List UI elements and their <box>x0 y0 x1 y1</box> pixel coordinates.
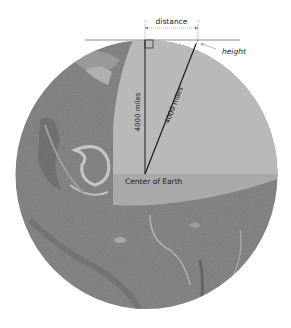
height-arrow <box>200 43 216 49</box>
distance-label: distance <box>156 17 188 26</box>
height-label: height <box>222 47 247 56</box>
vertical-radius-label: 4000 miles <box>134 92 142 131</box>
center-of-earth-label: Center of Earth <box>125 177 183 186</box>
earth-horizon-diagram: distance height 4000 miles 4000 miles Ce… <box>0 0 291 328</box>
height-extension-line <box>196 40 198 44</box>
